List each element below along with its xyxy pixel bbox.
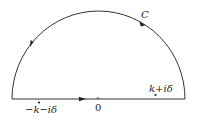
pole-lower-label: −k−iδ [25,104,57,115]
origin-label: 0 [95,102,101,113]
pole-upper-point [154,94,156,96]
contour-label: C [141,9,149,20]
pole-upper-label: k+iδ [149,83,173,94]
arrow-baseline-icon [79,97,86,101]
contour-diagram: C k+iδ −k−iδ 0 [0,0,198,124]
